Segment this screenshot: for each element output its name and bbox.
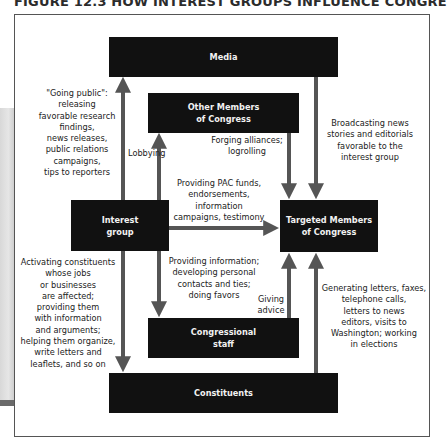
node-other-members: Other Members of Congress [148,93,299,133]
label-going-public: "Going public": releasing favorable rese… [36,88,118,178]
node-congressional-staff: Congressional staff [148,318,299,358]
label-providing-information: Providing information; developing person… [162,256,266,301]
label-activating-constituents: Activating constituents whose jobs or bu… [16,257,120,370]
label-giving-advice: Giving advice [254,294,288,317]
node-interest-group: Interest group [71,200,169,251]
label-lobbying: Lobbying [128,148,158,159]
node-targeted-members: Targeted Members of Congress [280,200,378,252]
label-pac-funds: Providing PAC funds, endorsements, infor… [166,178,272,223]
label-broadcasting: Broadcasting news stories and editorials… [320,118,420,163]
node-media: Media [109,37,338,77]
label-forging-alliances: Forging alliances; logrolling [207,135,287,158]
label-generating-letters: Generating letters, faxes, telephone cal… [320,283,428,351]
node-constituents: Constituents [109,373,338,413]
